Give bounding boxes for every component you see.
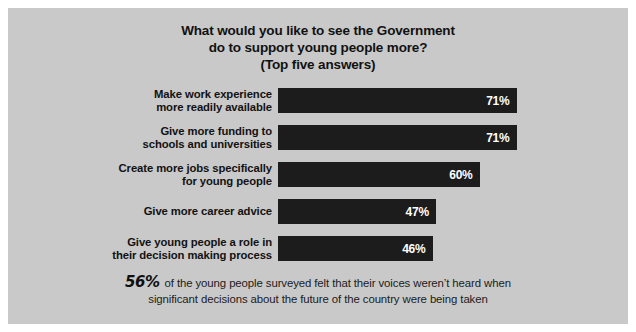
bar-value: 60%: [449, 168, 472, 182]
bar-value: 71%: [486, 131, 509, 145]
bar-row: Give more funding to schools and univers…: [8, 125, 628, 150]
bar-label-line-1: Give young people a role in: [42, 235, 272, 248]
bar-value: 47%: [405, 205, 428, 219]
bar-track: 46%: [278, 236, 614, 261]
bar-chart: Make work experience more readily availa…: [8, 88, 628, 273]
bar-label-line-1: Make work experience: [42, 87, 272, 100]
bar-label-line-2: schools and universities: [42, 138, 272, 151]
infographic-panel: What would you like to see the Governmen…: [8, 8, 628, 324]
bar-row: Make work experience more readily availa…: [8, 88, 628, 113]
bar-value: 46%: [402, 242, 425, 256]
bar-fill: 60%: [278, 162, 480, 187]
bar-label: Give more career advice: [42, 205, 272, 218]
bar-label-line-1: Give more career advice: [42, 205, 272, 218]
bar-label: Create more jobs specifically for young …: [42, 161, 272, 188]
footnote-text-part-1: of the young people surveyed felt that t…: [162, 277, 511, 289]
bar-track: 60%: [278, 162, 614, 187]
bar-row: Create more jobs specifically for young …: [8, 162, 628, 187]
bar-fill: 71%: [278, 125, 517, 150]
bar-fill: 47%: [278, 199, 436, 224]
footnote-line-2: significant decisions about the future o…: [68, 291, 568, 307]
bar-label-line-2: their decision making process: [42, 249, 272, 262]
footnote-stat: 56%: [125, 273, 161, 291]
footnote: 56% of the young people surveyed felt th…: [8, 274, 628, 307]
bar-label-line-1: Give more funding to: [42, 124, 272, 137]
bar-row: Give young people a role in their decisi…: [8, 236, 628, 261]
bar-track: 71%: [278, 88, 614, 113]
bar-track: 71%: [278, 125, 614, 150]
title-line-3: (Top five answers): [8, 56, 628, 73]
bar-fill: 71%: [278, 88, 517, 113]
bar-track: 47%: [278, 199, 614, 224]
chart-title: What would you like to see the Governmen…: [8, 22, 628, 73]
bar-row: Give more career advice 47%: [8, 199, 628, 224]
bar-fill: 46%: [278, 236, 433, 261]
bar-label: Give young people a role in their decisi…: [42, 235, 272, 262]
bar-label: Make work experience more readily availa…: [42, 87, 272, 114]
bar-label-line-2: more readily available: [42, 101, 272, 114]
bar-label-line-2: for young people: [42, 175, 272, 188]
title-line-1: What would you like to see the Governmen…: [8, 22, 628, 39]
bar-value: 71%: [486, 94, 509, 108]
bar-label-line-1: Create more jobs specifically: [42, 161, 272, 174]
title-line-2: do to support young people more?: [8, 39, 628, 56]
footnote-line-1: 56% of the young people surveyed felt th…: [68, 274, 568, 291]
bar-label: Give more funding to schools and univers…: [42, 124, 272, 151]
